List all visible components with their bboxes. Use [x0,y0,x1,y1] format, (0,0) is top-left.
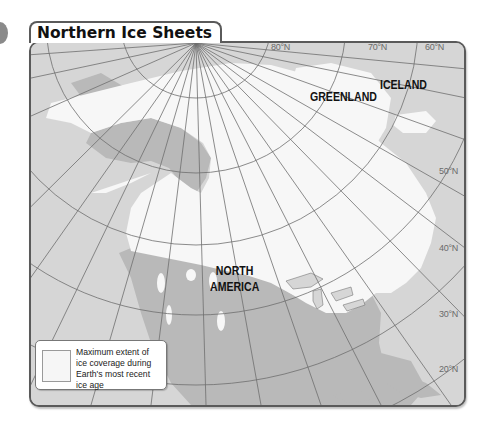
label-greenland: GREENLAND [310,90,377,104]
latitude-label-30n: 30°N [439,309,458,319]
latitude-label-50n: 50°N [439,166,458,176]
label-north-america: NORTH AMERICA [210,263,259,295]
map-title-tab: Northern Ice Sheets [29,21,222,43]
map-legend: Maximum extent of ice coverage during Ea… [35,340,167,390]
latitude-label-80n: 80°N [271,42,290,52]
latitude-label-60n: 60°N [425,42,444,52]
label-north-america-line1: NORTH [210,263,259,279]
latitude-label-40n: 40°N [439,243,458,253]
legend-swatch-ice [42,350,71,382]
latitude-label-70n: 70°N [368,42,387,52]
label-iceland: ICELAND [380,78,427,92]
latitude-label-20n: 20°N [439,364,458,374]
map-title: Northern Ice Sheets [37,24,212,42]
section-bullet [0,22,8,44]
legend-text: Maximum extent of ice coverage during Ea… [76,346,157,390]
label-north-america-line2: AMERICA [210,279,259,295]
